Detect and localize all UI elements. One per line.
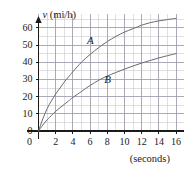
curve-label-B: B — [104, 73, 111, 85]
x-tick-label: 0 — [27, 137, 32, 147]
y-axis-unit-label: (mi/h) — [50, 9, 76, 20]
y-axis-symbol: v — [43, 9, 48, 20]
y-tick-label: 60 — [0, 23, 33, 33]
x-tick-label: 6 — [88, 137, 93, 147]
x-tick-label: 4 — [70, 137, 75, 147]
y-axis-label: v (mi/h) — [43, 9, 77, 20]
x-tick-label: 12 — [137, 137, 147, 147]
x-tick-label: 8 — [105, 137, 110, 147]
y-tick-label: 10 — [0, 109, 33, 119]
grid-major-lines — [39, 14, 185, 131]
x-axis-unit-label: (seconds) — [130, 153, 170, 164]
x-tick-label: 14 — [154, 137, 164, 147]
curve-label-A: A — [87, 34, 94, 46]
y-tick-label: 50 — [0, 40, 33, 50]
x-tick-label: 10 — [120, 137, 130, 147]
x-tick-label: 16 — [171, 137, 181, 147]
velocity-time-chart: 0102030405060 0246810121416 v (mi/h) t (… — [0, 0, 184, 176]
y-tick-label: 20 — [0, 92, 33, 102]
y-tick-label: 0 — [0, 126, 33, 136]
y-tick-label: 40 — [0, 57, 33, 67]
y-tick-label: 30 — [0, 74, 33, 84]
x-tick-label: 2 — [53, 137, 58, 147]
